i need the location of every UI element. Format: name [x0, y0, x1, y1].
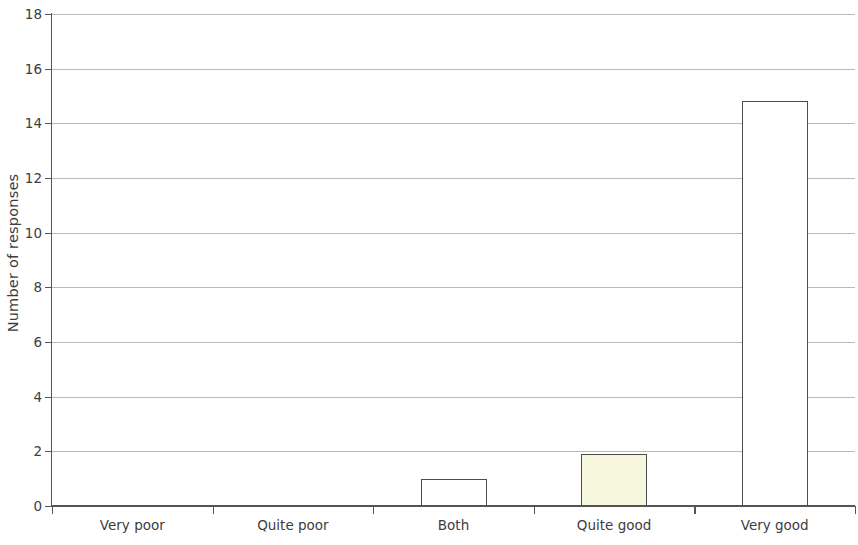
- gridline: [52, 397, 855, 398]
- bar-quite-good[interactable]: [581, 454, 647, 506]
- y-axis-tick-label: 8: [2, 279, 42, 295]
- x-axis-tick-label-very-poor: Very poor: [100, 517, 165, 533]
- gridline: [52, 287, 855, 288]
- y-axis-tick-labels: 024681012141618: [0, 0, 42, 545]
- y-axis-tick-label: 16: [2, 61, 42, 77]
- x-axis-tick-mark: [855, 506, 856, 514]
- x-axis-tick-mark: [694, 506, 695, 514]
- x-axis-tick-mark: [373, 506, 374, 514]
- x-axis-tick-label-quite-good: Quite good: [577, 517, 651, 533]
- x-axis-tick-label-very-good: Very good: [741, 517, 809, 533]
- plot-area: [52, 14, 855, 506]
- y-axis-tick-label: 2: [2, 443, 42, 459]
- x-axis-tick-mark: [213, 506, 214, 514]
- y-axis-tick-label: 14: [2, 115, 42, 131]
- y-axis-line: [51, 13, 52, 507]
- bar-both[interactable]: [421, 479, 487, 506]
- y-axis-tick-label: 10: [2, 225, 42, 241]
- y-axis-tick-label: 0: [2, 498, 42, 514]
- bar-very-good[interactable]: [742, 101, 808, 506]
- gridline: [52, 233, 855, 234]
- x-axis-tick-mark: [52, 506, 53, 514]
- x-axis-tick-label-quite-poor: Quite poor: [257, 517, 328, 533]
- gridline: [52, 123, 855, 124]
- y-axis-tick-label: 6: [2, 334, 42, 350]
- gridline: [52, 451, 855, 452]
- y-axis-tick-label: 18: [2, 6, 42, 22]
- x-axis-line: [52, 505, 855, 506]
- gridline: [52, 342, 855, 343]
- x-axis-tick-label-both: Both: [438, 517, 469, 533]
- y-axis-tick-label: 4: [2, 389, 42, 405]
- y-axis-tick-label: 12: [2, 170, 42, 186]
- gridline: [52, 178, 855, 179]
- gridline: [52, 14, 855, 15]
- bar-chart: Number of responses 024681012141618 Very…: [0, 0, 858, 545]
- gridline: [52, 69, 855, 70]
- x-axis-tick-mark: [534, 506, 535, 514]
